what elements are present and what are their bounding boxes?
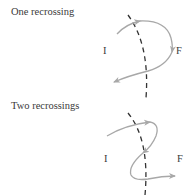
panel-1-trajectory-segment-3 <box>114 52 172 82</box>
panel-2-trajectory-segment-1 <box>107 122 150 136</box>
panel-1-trajectory-segment-1 <box>117 21 140 34</box>
diagram-canvas <box>0 0 195 195</box>
panel-2-trajectory-segment-2 <box>143 122 157 153</box>
panel-1-dividing-surface <box>128 15 147 98</box>
panel-2-trajectory-segment-3 <box>131 153 176 180</box>
panel-1-trajectory-segment-2 <box>140 21 172 52</box>
